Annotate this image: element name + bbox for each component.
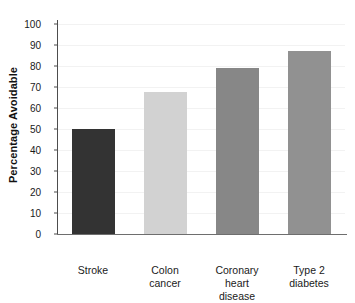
y-axis-tick-label: 50: [15, 124, 41, 135]
gridline: [58, 24, 345, 25]
x-axis-tick-label-line: Colon: [129, 264, 201, 277]
bar: [216, 68, 259, 234]
y-axis-tick-label: 0: [15, 229, 41, 240]
x-axis-tick-label-line: heart: [201, 277, 273, 290]
y-axis-tick-label: 100: [15, 19, 41, 30]
x-axis-tick-label: Stroke: [57, 264, 129, 277]
y-axis-tick-label: 30: [15, 166, 41, 177]
x-axis-baseline: [57, 234, 347, 235]
bar: [144, 92, 187, 234]
x-axis-tick-label: Type 2diabetes: [273, 264, 345, 290]
x-axis-tick-label-line: Stroke: [57, 264, 129, 277]
x-axis-tick-label: Coloncancer: [129, 264, 201, 290]
x-axis-tick-label-line: Coronary: [201, 264, 273, 277]
bar: [72, 129, 115, 234]
bar: [288, 51, 331, 234]
y-axis-tick-label: 40: [15, 145, 41, 156]
gridline: [58, 45, 345, 46]
y-axis-tick-label: 70: [15, 82, 41, 93]
x-axis-tick-label-line: diabetes: [273, 277, 345, 290]
x-axis-tick-label-line: disease: [201, 290, 273, 303]
y-axis-tick-label: 20: [15, 187, 41, 198]
x-axis-tick-label-line: cancer: [129, 277, 201, 290]
y-axis-spine: [57, 20, 58, 234]
y-axis-tick-label: 90: [15, 40, 41, 51]
y-axis-tick-label: 80: [15, 61, 41, 72]
y-axis-tick-label: 10: [15, 208, 41, 219]
plot-area: 0102030405060708090100 StrokeColoncancer…: [57, 24, 345, 234]
y-axis-tick-label: 60: [15, 103, 41, 114]
x-axis-tick-label-line: Type 2: [273, 264, 345, 277]
x-axis-tick-label: Coronaryheartdisease: [201, 264, 273, 303]
